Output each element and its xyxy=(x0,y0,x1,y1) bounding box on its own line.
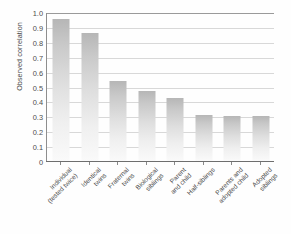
bar-series xyxy=(47,13,274,161)
bar-slot xyxy=(47,13,76,161)
y-axis-tick-label: 0.8 xyxy=(17,38,43,47)
x-axis-tick-labels: Individual (tested twice)Identical twins… xyxy=(46,166,274,232)
bar-slot xyxy=(76,13,105,161)
x-axis-tick-mark xyxy=(146,162,147,165)
x-axis-tick-mark xyxy=(231,162,232,165)
bar xyxy=(53,19,70,161)
y-axis-tick-label: 0.4 xyxy=(17,98,43,107)
x-axis-tick-mark xyxy=(203,162,204,165)
x-axis-tick-mark xyxy=(260,162,261,165)
bar-slot xyxy=(161,13,190,161)
bar-slot xyxy=(133,13,162,161)
bar xyxy=(110,81,127,161)
bar xyxy=(224,116,241,161)
bar-slot xyxy=(218,13,247,161)
bar-chart-figure: Observed correlation 1.00.90.80.70.60.50… xyxy=(0,0,291,234)
bar xyxy=(81,33,98,161)
x-axis-tick-mark xyxy=(174,162,175,165)
bar-slot xyxy=(190,13,219,161)
y-axis-tick-labels: 1.00.90.80.70.60.50.40.30.20.10 xyxy=(14,13,43,162)
y-axis-tick-label: 0.1 xyxy=(17,143,43,152)
y-axis-tick-label: 0.2 xyxy=(17,128,43,137)
x-axis-tick-mark xyxy=(89,162,90,165)
y-axis-tick-label: 0.7 xyxy=(17,53,43,62)
bar xyxy=(195,115,212,161)
bar xyxy=(167,98,184,161)
y-axis-tick-label: 0.9 xyxy=(17,23,43,32)
plot-area xyxy=(46,13,274,162)
y-axis-tick-label: 0.3 xyxy=(17,113,43,122)
x-axis-tick-mark xyxy=(117,162,118,165)
bar xyxy=(138,91,155,161)
y-axis-tick-label: 0.6 xyxy=(17,68,43,77)
y-axis-tick-label: 0.5 xyxy=(17,83,43,92)
bar-slot xyxy=(247,13,276,161)
y-axis-tick-label: 1.0 xyxy=(17,9,43,18)
y-axis-tick-label: 0 xyxy=(17,158,43,167)
x-axis-tick-mark xyxy=(60,162,61,165)
bar-slot xyxy=(104,13,133,161)
bar xyxy=(252,116,269,161)
